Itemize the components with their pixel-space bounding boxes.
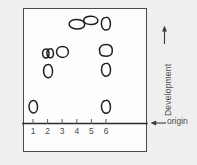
spot-lane6-mid — [101, 63, 110, 76]
development-label: Development — [164, 38, 173, 116]
spot-lane6-low — [101, 100, 110, 113]
spot-lane6-upper-mid — [99, 44, 112, 56]
spot-lane1-low — [29, 100, 37, 113]
spot-lane4-top — [69, 19, 85, 29]
spot-lane6-top — [101, 17, 110, 30]
spot-lane5-top — [84, 16, 98, 24]
lane-label-1: 1 — [27, 127, 39, 136]
lane-label-6: 6 — [100, 127, 112, 136]
lane-label-4: 4 — [71, 127, 83, 136]
spot-lane2-mid — [44, 64, 53, 77]
tlc-chromatogram-figure: 1 2 3 4 5 6 origin Development — [0, 0, 197, 165]
spot-lane2-double-right — [47, 49, 54, 58]
origin-arrow-icon — [151, 121, 167, 126]
origin-label: origin — [167, 117, 188, 126]
lane-label-5: 5 — [85, 127, 97, 136]
lane-label-2: 2 — [42, 127, 54, 136]
spot-group — [29, 16, 112, 113]
lane-label-3: 3 — [56, 127, 68, 136]
spot-lane3 — [57, 46, 69, 57]
